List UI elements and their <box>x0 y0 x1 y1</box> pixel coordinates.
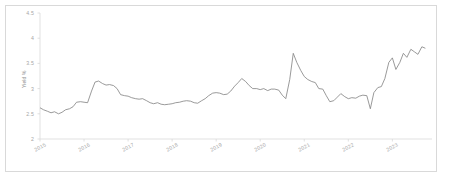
chart-axes <box>0 0 451 181</box>
chart-plot-area: Yield % 4.543.532.52 2015201620172018201… <box>0 0 451 181</box>
data-series-line <box>40 47 425 114</box>
axis-tick-marks <box>38 13 393 142</box>
